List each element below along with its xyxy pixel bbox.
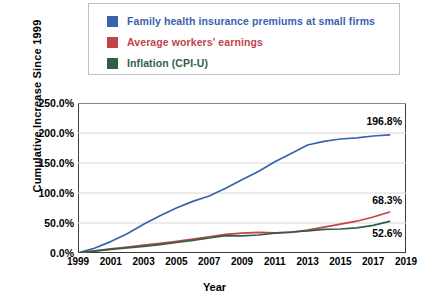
x-tick-label: 1999 [67, 256, 89, 267]
series-end-value-label: 52.6% [372, 227, 402, 239]
legend-label-inflation: Inflation (CPI-U) [127, 57, 208, 69]
chart-root: Family health insurance premiums at smal… [0, 0, 429, 303]
y-tick-label: 0.0% [2, 247, 74, 259]
x-tick-label: 2019 [395, 256, 417, 267]
x-tick-label: 2003 [132, 256, 154, 267]
y-tick-label: 100.0% [2, 187, 74, 199]
x-tick-label: 2009 [231, 256, 253, 267]
legend-swatch-premiums [107, 16, 118, 27]
y-tick-label: 50.0% [2, 217, 74, 229]
series-end-value-label: 68.3% [372, 194, 402, 206]
legend-item-earnings: Average workers' earnings [107, 32, 399, 52]
y-axis-ticks: 250.0%200.0%150.0%100.0%50.0%0.0% [0, 0, 74, 303]
y-tick-label: 200.0% [2, 127, 74, 139]
x-tick-label: 2013 [296, 256, 318, 267]
legend-swatch-earnings [107, 37, 118, 48]
x-tick-label: 2001 [100, 256, 122, 267]
legend-label-earnings: Average workers' earnings [127, 36, 263, 48]
legend-item-premiums: Family health insurance premiums at smal… [107, 11, 399, 31]
legend-item-inflation: Inflation (CPI-U) [107, 53, 399, 73]
chart-legend: Family health insurance premiums at smal… [88, 3, 400, 75]
x-axis-title: Year [0, 281, 429, 293]
plot-lines [78, 103, 406, 253]
x-tick-label: 2005 [165, 256, 187, 267]
x-tick-label: 2015 [329, 256, 351, 267]
x-tick-label: 2017 [362, 256, 384, 267]
y-tick-label: 250.0% [2, 97, 74, 109]
y-tick-label: 150.0% [2, 157, 74, 169]
x-tick-label: 2007 [198, 256, 220, 267]
x-tick-label: 2011 [264, 256, 286, 267]
series-end-value-label: 196.8% [366, 115, 402, 127]
legend-label-premiums: Family health insurance premiums at smal… [127, 15, 375, 27]
legend-swatch-inflation [107, 58, 118, 69]
